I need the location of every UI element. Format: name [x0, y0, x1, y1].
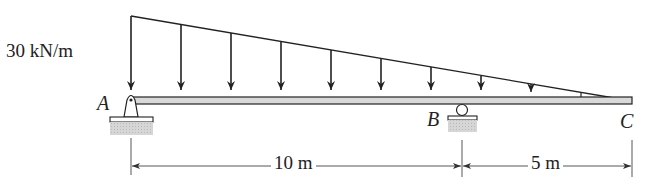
pin-icon [129, 98, 132, 101]
roller-support-B [448, 105, 477, 133]
dimension-label-AB: 10 m [271, 152, 316, 174]
triangular-load [131, 16, 632, 101]
ground-hatch-A [110, 122, 153, 135]
dimension-label-BC: 5 m [528, 152, 563, 174]
roller-icon [457, 105, 468, 116]
point-label-B: B [427, 108, 439, 131]
beam [131, 97, 632, 104]
point-label-A: A [97, 92, 109, 115]
ground-hatch-B [448, 120, 477, 132]
load-intensity-label: 30 kN/m [6, 40, 73, 62]
point-label-C: C [620, 110, 633, 133]
